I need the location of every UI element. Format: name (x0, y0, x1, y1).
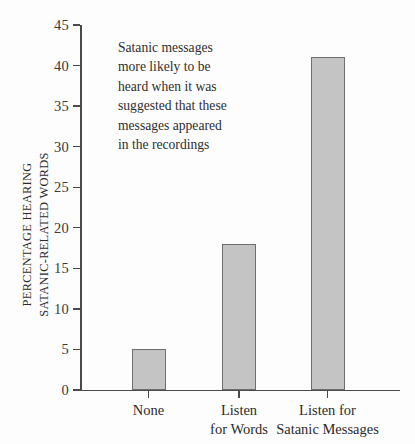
y-tick-20 (73, 227, 80, 228)
y-tick-0 (73, 389, 80, 390)
y-tick-label-15: 15 (23, 261, 69, 276)
y-tick-35 (73, 105, 80, 106)
y-tick-label-40: 40 (23, 59, 69, 74)
chart-annotation: Satanic messagesmore likely to beheard w… (118, 38, 248, 154)
annotation-line-0: Satanic messages (118, 38, 248, 57)
y-tick-45 (73, 24, 80, 25)
x-tick-2 (327, 391, 328, 398)
y-tick-label-20: 20 (23, 221, 69, 236)
y-tick-10 (73, 308, 80, 309)
y-tick-label-0: 0 (23, 383, 69, 398)
y-tick-label-10: 10 (23, 302, 69, 317)
annotation-line-2: heard when it was (118, 77, 248, 96)
bar-0 (132, 349, 166, 390)
y-tick-5 (73, 349, 80, 350)
y-tick-label-45: 45 (23, 18, 69, 33)
x-axis-label-2-line-1: Satanic Messages (248, 420, 408, 439)
y-tick-15 (73, 268, 80, 269)
x-tick-1 (238, 391, 239, 398)
y-tick-40 (73, 65, 80, 66)
y-tick-label-5: 5 (23, 342, 69, 357)
y-tick-label-35: 35 (23, 99, 69, 114)
x-tick-0 (148, 391, 149, 398)
x-axis-label-2-line-0: Listen for (248, 401, 408, 420)
y-tick-label-25: 25 (23, 180, 69, 195)
bar-1 (222, 244, 256, 390)
annotation-line-4: messages appeared (118, 116, 248, 135)
y-tick-30 (73, 146, 80, 147)
y-tick-25 (73, 187, 80, 188)
bar-chart: PERCENTAGE HEARING SATANIC-RELATED WORDS… (0, 0, 415, 444)
y-tick-label-30: 30 (23, 140, 69, 155)
annotation-line-1: more likely to be (118, 57, 248, 76)
bar-2 (311, 57, 345, 390)
annotation-line-5: in the recordings (118, 135, 248, 154)
x-axis-label-2: Listen forSatanic Messages (248, 401, 408, 439)
y-axis-line (80, 25, 82, 391)
annotation-line-3: suggested that these (118, 96, 248, 115)
